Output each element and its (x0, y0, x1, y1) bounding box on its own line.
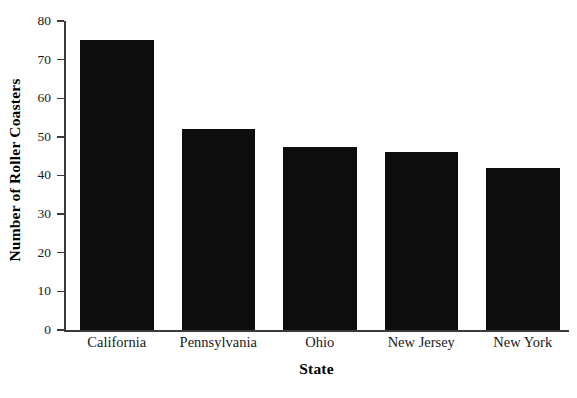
y-axis-title-text: Number of Roller Coasters (6, 78, 24, 261)
y-axis-tick: 20 (57, 252, 64, 253)
y-axis-tick: 40 (57, 175, 64, 176)
y-axis-tick: 80 (57, 20, 64, 21)
y-axis-title: Number of Roller Coasters (0, 0, 30, 340)
bar (80, 40, 154, 330)
y-axis-tick-label: 60 (38, 91, 52, 105)
x-axis-line (64, 330, 569, 332)
y-axis-tick-label: 30 (38, 207, 52, 221)
y-axis-tick-label: 0 (44, 323, 51, 337)
x-axis-category-label: New York (463, 335, 577, 351)
bar (385, 152, 459, 330)
x-axis-title: State (64, 360, 569, 378)
y-axis-tick: 60 (57, 98, 64, 99)
y-axis-tick: 70 (57, 59, 64, 60)
y-axis-tick: 10 (57, 291, 64, 292)
bar-chart-figure: Number of Roller Coasters 01020304050607… (0, 0, 577, 398)
y-axis-tick-label: 20 (38, 246, 52, 260)
y-axis-tick: 30 (57, 213, 64, 214)
y-axis-tick-label: 10 (38, 285, 52, 299)
y-axis-line (64, 21, 66, 331)
y-axis-tick-label: 50 (38, 130, 52, 144)
bar (182, 129, 256, 330)
y-axis-tick-label: 70 (38, 53, 52, 67)
bar (283, 147, 357, 330)
y-axis-tick-label: 40 (38, 169, 52, 183)
y-axis-tick: 50 (57, 136, 64, 137)
bar (486, 168, 560, 330)
plot-area: 01020304050607080 CaliforniaPennsylvania… (64, 21, 569, 330)
y-axis-tick-label: 80 (38, 14, 52, 28)
y-axis-tick: 0 (57, 329, 64, 330)
